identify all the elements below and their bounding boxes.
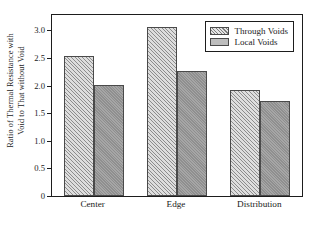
legend: Through Voids Local Voids (205, 21, 294, 52)
legend-entry: Local Voids (210, 37, 288, 47)
bar-distribution-local-voids (260, 101, 290, 196)
x-axis-label-edge: Edge (167, 200, 186, 209)
y-axis-title-line-1: Ratio of Thermal Resistance with (6, 1, 17, 181)
y-tick-label: 0.5 (34, 164, 45, 173)
y-tick (47, 30, 52, 31)
bar-center-through-voids (64, 56, 94, 196)
y-tick-label: 2.5 (34, 54, 45, 63)
y-tick-label: 2.0 (34, 81, 45, 90)
legend-label-local-voids: Local Voids (235, 38, 278, 47)
y-tick (47, 168, 52, 169)
legend-entry: Through Voids (210, 26, 288, 36)
legend-swatch-local-voids (210, 38, 229, 46)
y-axis-title-line-2: Void to That without Void (16, 1, 27, 181)
y-tick-label: 1.0 (34, 137, 45, 146)
y-axis-title: Ratio of Thermal Resistance with Void to… (6, 1, 27, 181)
y-tick (47, 113, 52, 114)
y-tick (47, 86, 52, 87)
y-tick (47, 58, 52, 59)
legend-swatch-through-voids (210, 27, 229, 35)
y-tick-label: 0 (41, 192, 45, 201)
y-tick (47, 141, 52, 142)
x-axis-label-distribution: Distribution (237, 200, 281, 209)
y-tick (47, 196, 52, 197)
legend-label-through-voids: Through Voids (235, 27, 288, 36)
plot-area: 00.51.01.52.02.53.0 Through Voids Local … (51, 14, 303, 197)
bar-center-local-voids (94, 85, 124, 196)
x-axis-label-center: Center (80, 200, 105, 209)
y-tick-label: 3.0 (34, 26, 45, 35)
bar-distribution-through-voids (230, 90, 260, 196)
bar-edge-through-voids (147, 27, 177, 196)
y-tick-label: 1.5 (34, 109, 45, 118)
bar-edge-local-voids (177, 71, 207, 196)
figure: Ratio of Thermal Resistance with Void to… (0, 0, 314, 228)
